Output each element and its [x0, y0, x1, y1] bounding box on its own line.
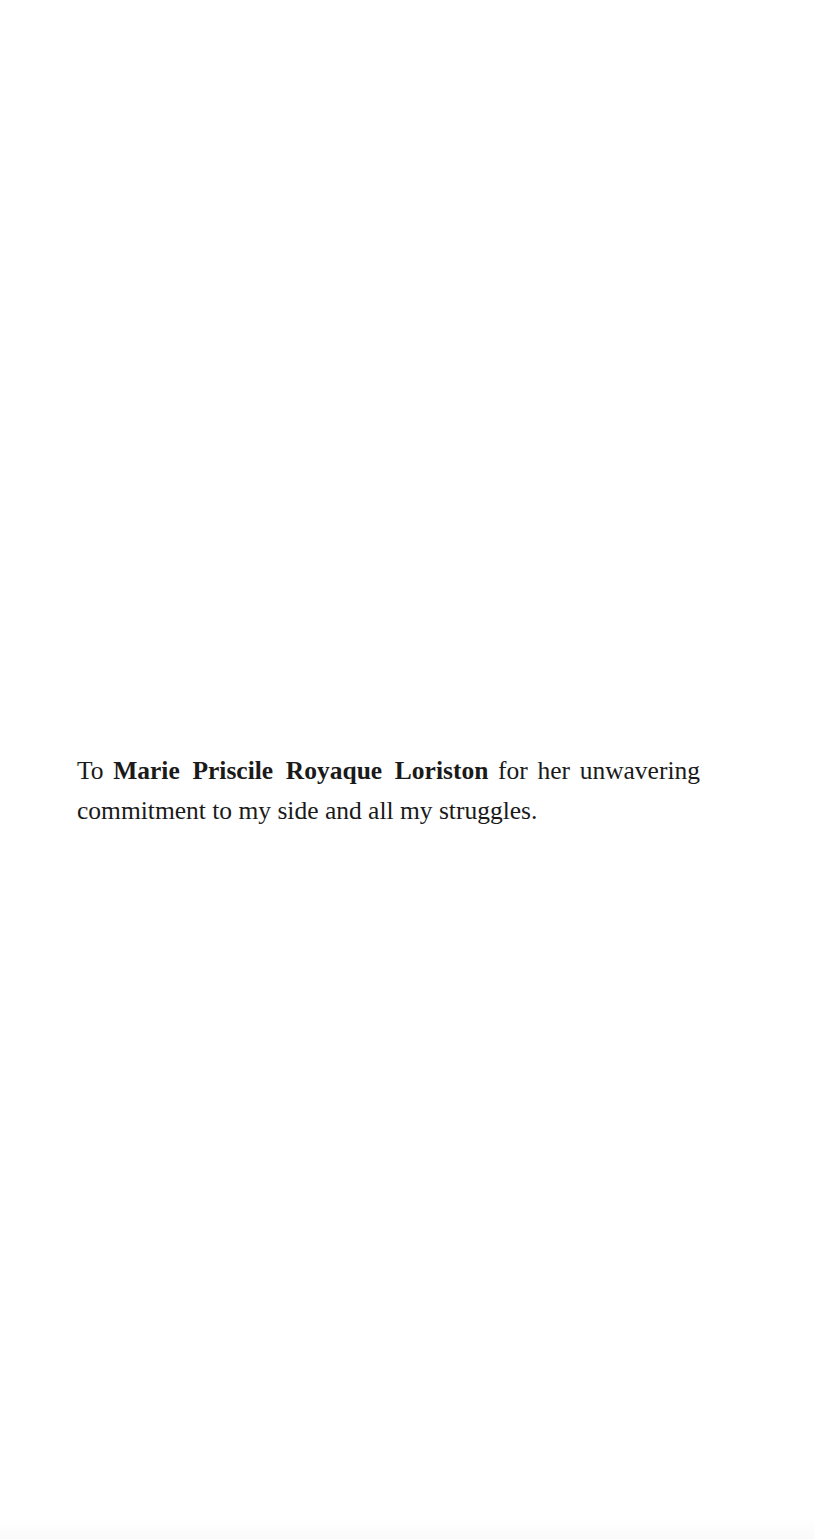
- dedication-paragraph: To Marie Priscile Royaque Loriston for h…: [77, 751, 700, 831]
- book-page: To Marie Priscile Royaque Loriston for h…: [0, 0, 814, 1539]
- dedicatee-name: Marie Priscile Royaque Loriston: [113, 756, 488, 785]
- dedication-prefix: To: [77, 756, 104, 785]
- scan-edge-shading: [0, 1517, 814, 1539]
